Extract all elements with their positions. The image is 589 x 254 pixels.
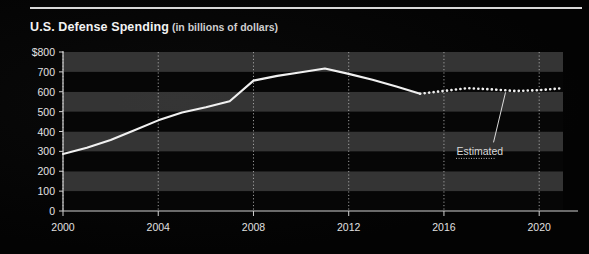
x-axis-tick-label: 2016 bbox=[432, 222, 455, 233]
x-axis-tick-label: 2000 bbox=[51, 222, 74, 233]
x-axis-tick-label: 2008 bbox=[242, 222, 265, 233]
x-axis-tick-label: 2004 bbox=[147, 222, 170, 233]
x-axis-tick-label: 2012 bbox=[337, 222, 360, 233]
chart-page: U.S. Defense Spending(in billions of dol… bbox=[0, 0, 589, 254]
x-axis-tick-label: 2020 bbox=[528, 222, 551, 233]
estimated-annotation-label: Estimated bbox=[457, 146, 504, 157]
x-axis-labels: 200020042008201220162020Estimated bbox=[0, 0, 589, 254]
